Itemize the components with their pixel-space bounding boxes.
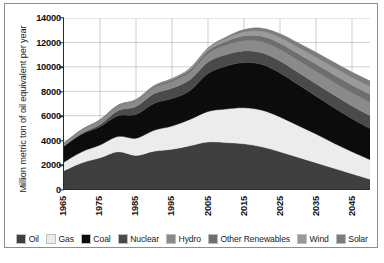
y-tick-label: 14000: [29, 13, 61, 23]
x-tick-label-text: 2045: [347, 196, 357, 216]
y-tick-label: 2000: [29, 160, 61, 170]
x-tick-label: 2025: [263, 192, 297, 226]
legend-label: Solar: [348, 234, 368, 244]
x-tick-label: 2045: [335, 192, 369, 226]
x-tick-label-text: 1985: [130, 196, 140, 216]
plot-area: [63, 18, 370, 190]
legend-swatch-icon: [166, 234, 176, 244]
legend-swatch-icon: [81, 234, 91, 244]
figure-caption: [4, 252, 380, 263]
x-tick-label-text: 2015: [239, 196, 249, 216]
legend-swatch-icon: [118, 234, 128, 244]
figure-frame: Million metric ton of oil equivalent per…: [4, 3, 378, 248]
x-tick-label-text: 2005: [202, 196, 212, 216]
area-series-group: [64, 28, 370, 189]
legend-label: Hydro: [179, 234, 201, 244]
legend-label: Coal: [93, 234, 110, 244]
legend-label: Other Renewables: [220, 234, 290, 244]
legend-item[interactable]: Hydro: [166, 234, 201, 244]
x-tick-label: 2005: [190, 192, 224, 226]
x-tick-label: 2015: [227, 192, 261, 226]
legend-swatch-icon: [208, 234, 218, 244]
y-axis-title-text: Million metric ton of oil equivalent per…: [18, 25, 28, 192]
legend-swatch-icon: [336, 234, 346, 244]
x-tick-label: 1995: [154, 192, 188, 226]
x-tick-label-text: 1965: [58, 196, 68, 216]
x-tick-label-text: 2035: [311, 196, 321, 216]
legend-item[interactable]: Nuclear: [118, 234, 159, 244]
y-tick-label: 10000: [29, 62, 61, 72]
y-tick-label: 6000: [29, 111, 61, 121]
legend-swatch-icon: [46, 234, 56, 244]
legend-swatch-icon: [16, 234, 26, 244]
legend-item[interactable]: Gas: [46, 234, 74, 244]
legend-label: Gas: [58, 234, 73, 244]
y-tick-label: 12000: [29, 38, 61, 48]
x-tick-label: 1985: [118, 192, 152, 226]
x-tick-label-text: 1995: [166, 196, 176, 216]
y-tick-label: 8000: [29, 87, 61, 97]
legend-item[interactable]: Other Renewables: [208, 234, 290, 244]
x-tick-label-text: 1975: [94, 196, 104, 216]
legend-swatch-icon: [297, 234, 307, 244]
x-axis-tick-labels: 196519751985199520052015202520352045: [63, 192, 370, 226]
y-axis-tick-labels: 02000400060008000100001200014000: [29, 18, 61, 190]
legend-item[interactable]: Solar: [336, 234, 368, 244]
legend-label: Wind: [310, 234, 329, 244]
x-tick-label-text: 2025: [275, 196, 285, 216]
legend-item[interactable]: Wind: [297, 234, 329, 244]
stacked-area-chart: [64, 18, 370, 189]
legend-item[interactable]: Oil: [16, 234, 39, 244]
y-tick-label: 4000: [29, 136, 61, 146]
legend-label: Oil: [29, 234, 39, 244]
legend-label: Nuclear: [130, 234, 159, 244]
x-tick-label: 2035: [299, 192, 333, 226]
legend-item[interactable]: Coal: [81, 234, 111, 244]
y-axis-title: Million metric ton of oil equivalent per…: [16, 22, 30, 196]
chart-legend: OilGasCoalNuclearHydroOther RenewablesWi…: [15, 232, 369, 245]
x-tick-label: 1965: [46, 192, 80, 226]
x-tick-label: 1975: [82, 192, 116, 226]
